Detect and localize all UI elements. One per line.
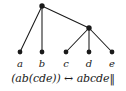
- edge-inner-e: [89, 28, 112, 52]
- edge-root-a: [20, 6, 42, 52]
- node-leaf-d: [87, 50, 92, 55]
- leaf-label-e: e: [105, 59, 119, 69]
- edge-root-inner: [42, 6, 89, 28]
- leaf-label-b: b: [35, 59, 49, 69]
- node-leaf-a: [18, 50, 23, 55]
- leaf-label-a: a: [13, 59, 27, 69]
- tree-nodes: [18, 3, 115, 54]
- node-root: [39, 3, 44, 8]
- leaf-label-d: d: [82, 59, 96, 69]
- leaf-label-c: c: [59, 59, 73, 69]
- node-inner: [86, 25, 91, 30]
- node-leaf-c: [64, 50, 69, 55]
- edge-inner-c: [66, 28, 89, 52]
- tree-edges: [20, 6, 112, 52]
- node-leaf-b: [40, 50, 45, 55]
- tree-diagram: [0, 0, 126, 62]
- tree-notation-figure: a b c d e (ab(cde)) ↔ abcde‖: [0, 0, 126, 91]
- node-leaf-e: [110, 50, 115, 55]
- equivalence-formula: (ab(cde)) ↔ abcde‖: [0, 72, 126, 85]
